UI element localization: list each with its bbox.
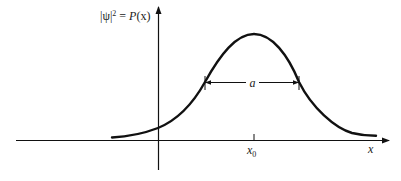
probability-curve: [112, 34, 376, 138]
width-label: a: [250, 76, 256, 90]
x0-label: x0: [246, 143, 256, 159]
wave-packet-diagram: |ψ|2 = P(x) a x0 x: [0, 0, 401, 181]
x-axis-label: x: [367, 142, 374, 156]
y-axis-label: |ψ|2 = P(x): [100, 9, 150, 23]
